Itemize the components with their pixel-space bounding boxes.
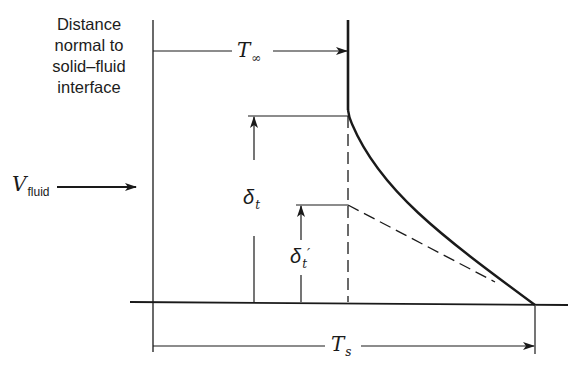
delta-t-prime-main: δ (290, 245, 301, 267)
delta-t-sub: t (255, 198, 260, 212)
t-infinity-label: T∞ (237, 38, 261, 62)
t-inf-main: T (237, 38, 250, 62)
axis-title: Distance normal to solid–fluid interface (44, 14, 134, 98)
thermal-boundary-layer-diagram: Distance normal to solid–fluid interface… (0, 0, 587, 373)
prime-mark: ′ (307, 246, 310, 262)
interface-baseline (130, 302, 568, 305)
axis-title-line-2: normal to (44, 35, 134, 56)
axis-title-line-1: Distance (44, 14, 134, 35)
delta-t-label: δt (243, 185, 260, 209)
delta-t-prime-label: δt′ (290, 244, 310, 268)
t-s-main: T (331, 332, 344, 356)
v-fluid-main: V (12, 172, 26, 196)
temperature-profile-curve (348, 110, 535, 305)
delta-t-main: δ (243, 186, 254, 208)
v-fluid-sub: fluid (27, 185, 49, 199)
t-s-sub: s (345, 345, 351, 359)
v-fluid-label: Vfluid (12, 172, 49, 196)
axis-title-line-3: solid–fluid (44, 56, 134, 77)
t-s-label: Ts (331, 332, 352, 356)
axis-title-line-4: interface (44, 77, 134, 98)
t-inf-sub: ∞ (251, 51, 261, 65)
